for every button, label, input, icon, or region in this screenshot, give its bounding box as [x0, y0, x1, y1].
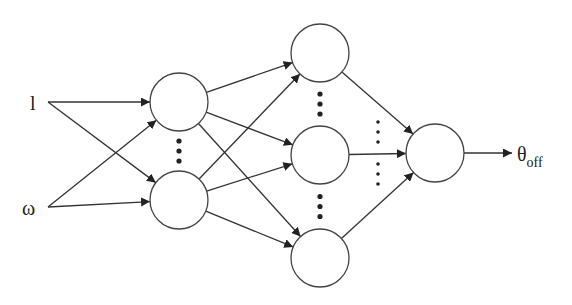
edge-h1b-to-h2b: [207, 164, 293, 191]
ellipsis-dot: [317, 111, 322, 116]
edge-h1b-to-h2c: [206, 211, 293, 247]
edge-h1a-to-h2a: [206, 63, 292, 93]
output-label: θoff: [517, 143, 543, 170]
output-layer-node-out: [406, 124, 464, 182]
output-label-sub: off: [527, 155, 543, 170]
ellipsis-dot: [376, 162, 380, 166]
output-label-main: θ: [517, 143, 527, 165]
edge-in_l-to-h1b: [48, 102, 156, 183]
edge-h1a-to-h2b: [206, 112, 293, 145]
ellipsis-dot: [376, 182, 380, 186]
ellipsis-dot: [376, 172, 380, 176]
ellipsis-dot: [376, 130, 380, 134]
hidden-layer-2-node-h2b: [291, 126, 349, 184]
edge-h1a-to-h2c: [198, 124, 300, 237]
ellipsis-dot: [176, 158, 181, 163]
ellipsis-dot: [376, 120, 380, 124]
input-label-l: l: [30, 92, 36, 114]
edge-in_w-to-h1b: [48, 202, 150, 207]
hidden-layer-1-node-h1b: [150, 171, 208, 229]
neural-network-diagram: l ω θoff: [0, 0, 572, 305]
ellipsis-dot: [176, 138, 181, 143]
ellipsis-dot: [317, 204, 322, 209]
edge-h2a-to-out: [342, 72, 413, 134]
edge-h2b-to-out: [349, 154, 406, 155]
ellipsis-dot: [317, 214, 322, 219]
ellipsis-dot: [317, 194, 322, 199]
input-label-omega: ω: [22, 197, 35, 219]
ellipsis-dot: [176, 148, 181, 153]
edge-in_w-to-h1a: [48, 120, 156, 207]
ellipsis-dot: [376, 140, 380, 144]
hidden-layer-2-node-h2a: [291, 24, 349, 82]
hidden-layer-2-node-h2c: [291, 229, 349, 287]
hidden-layer-1-node-h1a: [150, 73, 208, 131]
ellipsis-dot: [317, 101, 322, 106]
ellipsis-dot: [317, 91, 322, 96]
